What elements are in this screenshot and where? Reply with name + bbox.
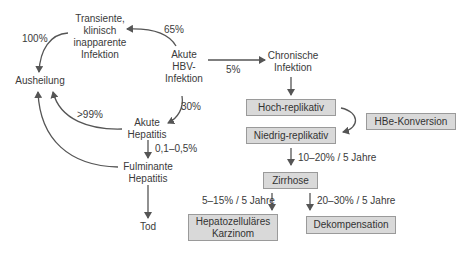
edge-label-dekomp: 20–30% / 5 Jahre [317,195,395,207]
edge-label-100: 100% [22,33,48,45]
node-akute-hepatitis: Akute Hepatitis [122,117,172,141]
edge-label-65: 65% [164,24,184,36]
edge-label-zirrhose: 10–20% / 5 Jahre [298,152,376,164]
box-niedrig-replikativ: Niedrig-replikativ [246,127,336,144]
edge-label-5: 5% [226,64,240,76]
node-ausheilung: Ausheilung [10,75,70,87]
edge-label-99: >99% [77,109,103,121]
node-akute-hbv-infektion: Akute HBV- Infektion [160,49,208,85]
edge-label-fulminant: 0,1–0,5% [155,143,197,155]
node-transient: Transiente, klinisch inapparente Infekti… [68,13,132,61]
node-fulminante-hepatitis: Fulminante Hepatitis [118,161,178,185]
edge-label-hcc: 5–15% / 5 Jahre [202,195,275,207]
node-chronische-infektion: Chronische Infektion [264,50,322,74]
box-dekompensation: Dekompensation [306,216,396,234]
box-zirrhose: Zirrhose [263,172,318,189]
box-hbe-konversion: HBe-Konversion [366,113,456,130]
node-tod: Tod [133,221,163,233]
box-hepatozellulaeres-karzinom: Hepatozelluläres Karzinom [188,214,278,241]
box-hoch-replikativ: Hoch-replikativ [246,99,336,116]
edge-label-30: 30% [181,101,201,113]
